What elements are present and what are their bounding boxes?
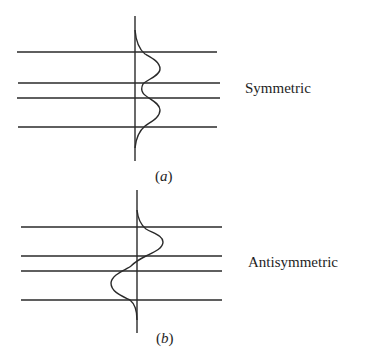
caption-b-close: ) [169,330,174,346]
caption-a-close: ) [168,168,173,184]
caption-b: (b) [156,330,174,347]
caption-b-letter: b [161,330,169,346]
panel-b [21,190,222,333]
symmetric-mode-curve [135,30,160,148]
symmetric-label: Symmetric [245,80,311,97]
caption-a: (a) [155,168,173,185]
panel-a [17,16,220,161]
antisymmetric-label: Antisymmetric [248,254,338,271]
waveguide-mode-diagram [0,0,391,361]
caption-a-letter: a [160,168,168,184]
